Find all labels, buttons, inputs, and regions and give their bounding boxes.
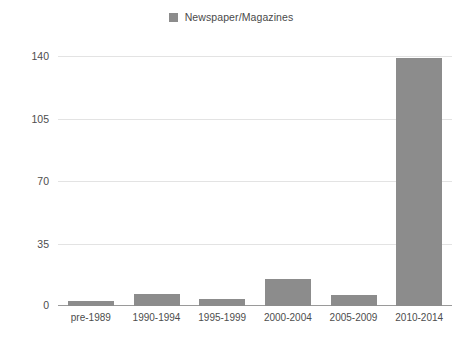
- bar-series-newspaper-magazines: pre-1989 1990-1994 1995-1999 2000-2004 2…: [58, 56, 452, 306]
- y-axis-tick-label-70: 70: [37, 175, 49, 187]
- y-axis-tick-label-0: 0: [43, 299, 49, 311]
- bar[interactable]: [68, 301, 114, 306]
- bar[interactable]: [331, 295, 377, 306]
- bar-slot: 2000-2004: [255, 56, 321, 306]
- x-axis-tick-label: pre-1989: [71, 312, 111, 323]
- bar[interactable]: [199, 299, 245, 306]
- legend-item-newspaper-magazines[interactable]: Newspaper/Magazines: [169, 11, 294, 23]
- y-axis-tick-label-35: 35: [37, 238, 49, 250]
- bar-slot: 1995-1999: [189, 56, 255, 306]
- bar-slot: 2005-2009: [321, 56, 387, 306]
- bar[interactable]: [396, 58, 442, 306]
- legend-item-label: Newspaper/Magazines: [185, 11, 294, 23]
- x-axis-tick-label: 1995-1999: [198, 312, 246, 323]
- y-axis-tick-label-140: 140: [31, 50, 49, 62]
- bar-slot: pre-1989: [58, 56, 124, 306]
- bar-slot: 1990-1994: [124, 56, 190, 306]
- bar[interactable]: [265, 279, 311, 306]
- legend-swatch-icon: [169, 13, 178, 22]
- x-axis-tick-label: 1990-1994: [133, 312, 181, 323]
- chart-legend: Newspaper/Magazines: [0, 11, 462, 23]
- plot-area: 140 105 70 35 0 pre-1989 1990-1994: [58, 56, 452, 306]
- y-axis-tick-label-105: 105: [31, 113, 49, 125]
- bar-slot: 2010-2014: [386, 56, 452, 306]
- x-axis-tick-label: 2010-2014: [395, 312, 443, 323]
- x-axis-tick-label: 2005-2009: [330, 312, 378, 323]
- bar[interactable]: [134, 294, 180, 307]
- bar-chart: Newspaper/Magazines 140 105 70 35 0 pre-…: [0, 0, 462, 357]
- x-axis-tick-label: 2000-2004: [264, 312, 312, 323]
